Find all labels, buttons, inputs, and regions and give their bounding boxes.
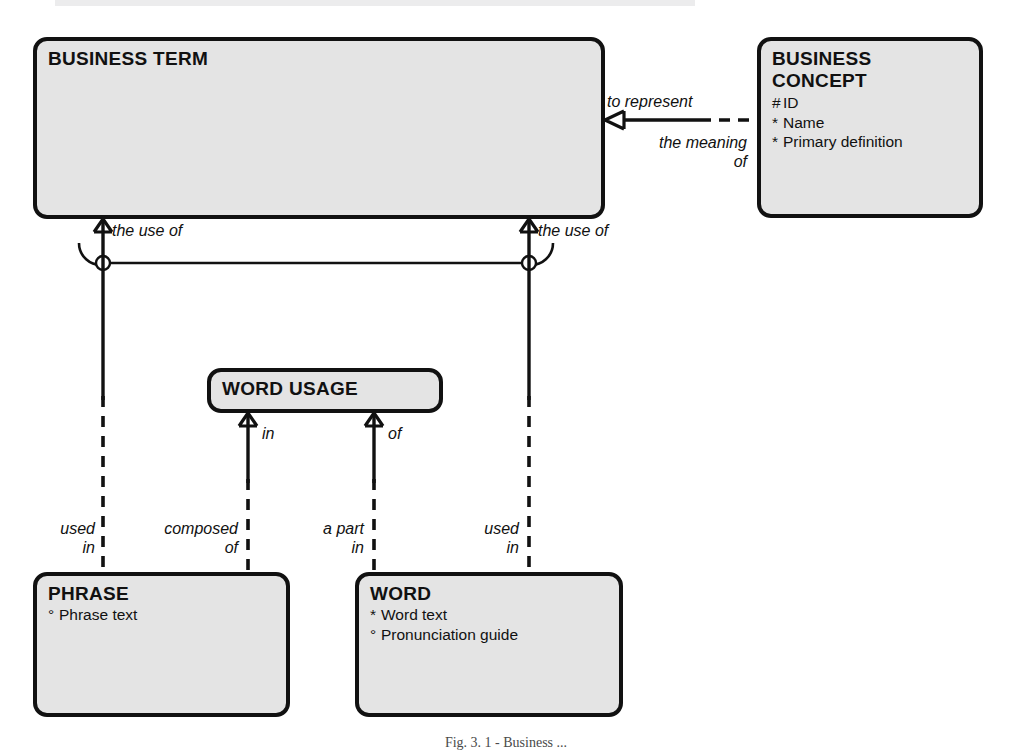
scan-artifact-strip bbox=[55, 0, 695, 6]
attribute-label: Name bbox=[783, 114, 824, 131]
attribute-label: Phrase text bbox=[59, 606, 137, 623]
exclusive-arc bbox=[79, 243, 553, 270]
attribute-marker: * bbox=[772, 132, 783, 152]
attribute-label: Pronunciation guide bbox=[381, 626, 518, 643]
attribute-label: Primary definition bbox=[783, 133, 903, 150]
entity-phrase[interactable]: PHRASE °Phrase text bbox=[33, 572, 290, 717]
entity-business-term[interactable]: BUSINESS TERM bbox=[33, 37, 605, 219]
attribute-row: *Name bbox=[772, 113, 979, 133]
relationship-label-the-use-of-right: the use of bbox=[538, 221, 608, 240]
entity-word[interactable]: WORD *Word text °Pronunciation guide bbox=[355, 572, 623, 717]
relationship-term-use-of-word bbox=[520, 219, 538, 572]
entity-name-phrase: PHRASE bbox=[37, 576, 286, 604]
attribute-label: Word text bbox=[381, 606, 447, 623]
relationship-label-used-in-phrase: used in bbox=[6, 519, 95, 557]
relationship-label-the-use-of-left: the use of bbox=[112, 221, 182, 240]
attribute-row: *Primary definition bbox=[772, 132, 979, 152]
entity-business-concept[interactable]: BUSINESS CONCEPT #ID *Name *Primary defi… bbox=[757, 37, 983, 218]
attribute-marker: ° bbox=[370, 625, 381, 645]
relationship-term-to-concept bbox=[605, 111, 757, 129]
entity-attributes-phrase: °Phrase text bbox=[37, 604, 286, 625]
attribute-row: #ID bbox=[772, 93, 979, 113]
attribute-row: *Word text bbox=[370, 605, 619, 625]
relationship-wordusage-word bbox=[365, 413, 383, 572]
attribute-marker: * bbox=[772, 113, 783, 133]
entity-word-usage[interactable]: WORD USAGE bbox=[207, 368, 443, 413]
attribute-marker: # bbox=[772, 93, 783, 113]
entity-name-word: WORD bbox=[359, 576, 619, 604]
attribute-marker: * bbox=[370, 605, 381, 625]
relationship-label-composed-of-phrase: composed of bbox=[110, 519, 238, 557]
relationship-label-a-part-in-word: a part in bbox=[255, 519, 364, 557]
attribute-label: ID bbox=[783, 94, 799, 111]
figure-caption: Fig. 3. 1 - Business ... bbox=[306, 735, 706, 751]
relationship-label-to-represent: to represent bbox=[607, 92, 692, 111]
attribute-marker: ° bbox=[48, 605, 59, 625]
relationship-label-the-meaning-of: the meaning of bbox=[597, 133, 747, 171]
entity-name-business-concept-line1: BUSINESS bbox=[761, 41, 979, 70]
relationship-label-of-wordusage: of bbox=[388, 424, 401, 443]
entity-name-word-usage: WORD USAGE bbox=[211, 372, 439, 399]
entity-attributes-business-term bbox=[37, 69, 601, 70]
attribute-row: °Phrase text bbox=[48, 605, 286, 625]
entity-name-business-term: BUSINESS TERM bbox=[37, 41, 601, 69]
relationship-label-used-in-word: used in bbox=[430, 519, 519, 557]
entity-attributes-business-concept: #ID *Name *Primary definition bbox=[761, 92, 979, 152]
attribute-row: °Pronunciation guide bbox=[370, 625, 619, 645]
entity-name-business-concept-line2: CONCEPT bbox=[761, 70, 979, 92]
relationship-label-in-wordusage: in bbox=[262, 424, 274, 443]
entity-attributes-word: *Word text °Pronunciation guide bbox=[359, 604, 619, 644]
